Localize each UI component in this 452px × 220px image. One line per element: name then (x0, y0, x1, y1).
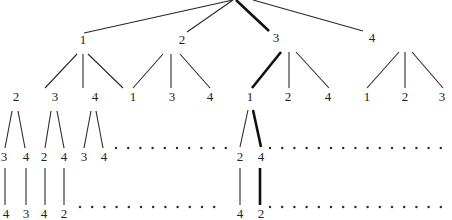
ellipsis-dot (151, 147, 153, 149)
ellipsis-dot (403, 147, 405, 149)
tree-node-label-level-2: 4 (207, 89, 214, 104)
tree-edge (133, 54, 163, 88)
ellipsis-dot (415, 147, 417, 149)
ellipsis-dot (379, 147, 381, 149)
ellipsis-dot (318, 206, 320, 208)
tree-edge (96, 111, 103, 148)
ellipsis-dot (176, 206, 178, 208)
tree-edge (412, 52, 443, 88)
ellipsis-dot (305, 206, 307, 208)
ellipsis-dot (176, 147, 178, 149)
tree-node-label-level-3: 3 (1, 149, 8, 164)
tree-node-label-level-4: 2 (61, 206, 68, 220)
tree-edge (88, 54, 123, 88)
ellipsis-dot (440, 206, 442, 208)
ellipsis-dot (127, 147, 129, 149)
tree-edge (5, 111, 12, 148)
ellipsis-dot (213, 206, 215, 208)
tree-node-label-level-4: 4 (237, 206, 244, 220)
tree-node-label-level-4: 4 (3, 206, 10, 220)
tree-edge (180, 54, 210, 88)
tree-node-label-level-2: 1 (364, 89, 371, 104)
ellipsis-dot (403, 206, 405, 208)
ellipsis-dot (293, 206, 295, 208)
ellipsis-dot (330, 206, 332, 208)
ellipsis-dot (330, 147, 332, 149)
ellipsis-dot (152, 206, 154, 208)
tree-edge (84, 0, 233, 33)
ellipsis-dot (201, 206, 203, 208)
tree-node-label-level-3: 3 (81, 149, 88, 164)
tree-node-label-level-1: 1 (80, 32, 87, 47)
ellipsis-dot (415, 206, 417, 208)
ellipsis-dot (281, 147, 283, 149)
tree-edge (84, 111, 91, 148)
tree-node-label-level-1: 4 (369, 30, 376, 45)
tree-node-label-level-4: 2 (258, 206, 265, 220)
tree-node-label-level-1: 2 (179, 32, 186, 47)
tree-edges (5, 0, 443, 205)
tree-node-label-level-3: 2 (237, 149, 244, 164)
ellipsis-dot (115, 147, 117, 149)
ellipsis-dot (427, 147, 429, 149)
ellipsis-dot (164, 206, 166, 208)
ellipsis-dot (128, 206, 130, 208)
tree-node-label-level-3: 2 (41, 149, 48, 164)
ellipsis-dot (342, 206, 344, 208)
tree-edge (18, 111, 25, 148)
ellipsis-dot (281, 206, 283, 208)
ellipsis-dot (164, 147, 166, 149)
tree-node-label-level-4: 3 (23, 206, 30, 220)
ellipsis-dot (188, 147, 190, 149)
ellipsis-dot (140, 206, 142, 208)
ellipsis-dot (103, 206, 105, 208)
ellipsis-dot (440, 147, 442, 149)
ellipsis-dot (379, 206, 381, 208)
ellipsis-dot (269, 147, 271, 149)
ellipsis-dot (354, 206, 356, 208)
tree-node-label-level-2: 4 (325, 89, 332, 104)
tree-node-labels: 123423413412412334243424434242 (1, 30, 446, 220)
ellipsis-dot (212, 147, 214, 149)
ellipsis-dot (225, 147, 227, 149)
ellipsis-dot (342, 147, 344, 149)
ellipsis-dot (115, 206, 117, 208)
tree-node-label-level-3: 4 (61, 149, 68, 164)
tree-node-label-level-4: 4 (41, 206, 48, 220)
ellipsis-dot (293, 147, 295, 149)
tree-edge (296, 52, 329, 88)
tree-edge (45, 54, 77, 88)
tree-edge (253, 0, 363, 31)
ellipsis-dot (200, 147, 202, 149)
tree-node-label-level-2: 2 (13, 89, 20, 104)
tree-edge (240, 110, 248, 147)
tree-node-label-level-2: 3 (169, 89, 176, 104)
ellipsis-dot (318, 147, 320, 149)
ellipsis-dot (269, 206, 271, 208)
ellipsis-dot (91, 206, 93, 208)
ellipsis-dot (391, 206, 393, 208)
ellipsis-dot (366, 147, 368, 149)
ellipsis-dot (366, 206, 368, 208)
ellipsis-dot (139, 147, 141, 149)
tree-node-label-level-2: 1 (247, 89, 254, 104)
tree-node-label-level-2: 4 (92, 89, 99, 104)
highlighted-tree-edge (252, 52, 281, 88)
tree-edge (45, 111, 51, 148)
tree-node-label-level-2: 3 (52, 89, 59, 104)
tree-node-label-level-2: 2 (285, 89, 292, 104)
tree-node-label-level-2: 2 (402, 89, 409, 104)
ellipsis-dot (427, 206, 429, 208)
ellipsis-dot (354, 147, 356, 149)
permutation-tree-diagram: 123423413412412334243424434242 (0, 0, 452, 220)
tree-node-label-level-3: 4 (101, 149, 108, 164)
tree-node-label-level-3: 4 (23, 149, 30, 164)
highlighted-tree-edge (253, 110, 261, 147)
ellipsis-dot (391, 147, 393, 149)
highlighted-tree-edge (236, 0, 269, 31)
ellipsis-dot (305, 147, 307, 149)
ellipsis-dot (189, 206, 191, 208)
tree-node-label-level-2: 3 (439, 89, 446, 104)
tree-canvas: 123423413412412334243424434242 (0, 0, 452, 220)
ellipsis-dot (79, 206, 81, 208)
